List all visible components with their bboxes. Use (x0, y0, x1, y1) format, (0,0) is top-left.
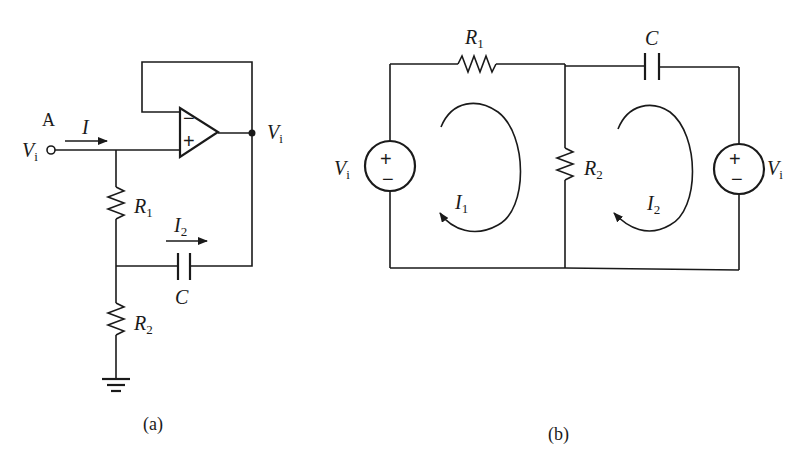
input-current-label: I (81, 116, 90, 138)
resistor-r2 (557, 148, 573, 180)
figure-b: R1 C + − Vi R2 + − Vi I1 I2 (b) (334, 26, 783, 445)
output-voltage-label: Vi (267, 121, 283, 146)
input-terminal (47, 146, 55, 154)
loop-current-1-arrow (440, 103, 521, 231)
source-left-plus: + (380, 148, 392, 170)
branch-current-label: I2 (173, 214, 187, 239)
source-right-label: Vi (767, 157, 783, 182)
resistor-r1 (458, 56, 496, 72)
input-voltage-label: Vi (22, 139, 38, 164)
source-left-minus: − (382, 168, 394, 190)
loop-current-1-label: I1 (454, 191, 468, 216)
node-label-a: A (42, 110, 55, 130)
opamp-inverting-sign: − (183, 107, 195, 129)
ground-icon (102, 379, 130, 391)
resistor-r2-label: R2 (583, 157, 603, 182)
source-right-plus: + (729, 148, 741, 170)
source-left-label: Vi (334, 157, 350, 182)
resistor-r1-label: R1 (464, 26, 484, 51)
opamp-noninverting-sign: + (183, 130, 195, 152)
caption-b: (b) (548, 424, 569, 445)
source-right-minus: − (731, 168, 743, 190)
figure-a: A Vi I − + Vi R1 I2 C (22, 62, 283, 435)
loop-current-2-label: I2 (646, 192, 660, 217)
resistor-r1 (108, 187, 124, 219)
resistor-r2-label: R2 (133, 312, 153, 337)
resistor-r2 (108, 303, 124, 335)
capacitor-label: C (645, 27, 659, 49)
capacitor-label: C (175, 286, 189, 308)
caption-a: (a) (143, 414, 163, 435)
resistor-r1-label: R1 (133, 195, 153, 220)
